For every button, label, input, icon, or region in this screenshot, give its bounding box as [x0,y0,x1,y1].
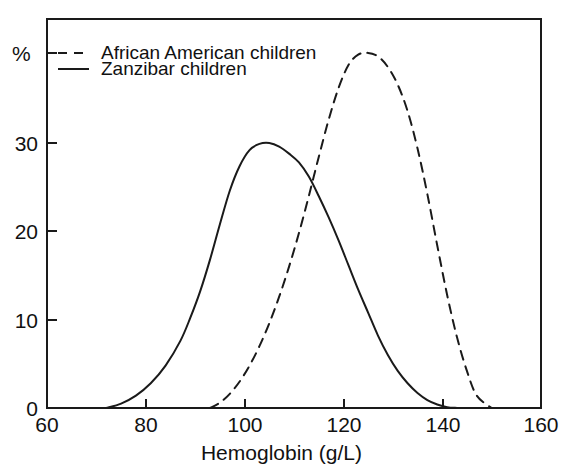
x-tick-label-140: 140 [413,413,473,437]
y-tick-label-30: 30 [0,132,38,156]
y-axis-title: % [12,42,31,66]
x-axis-ticks [146,399,443,408]
chart-container: 0 10 20 30 % 60 80 100 120 140 160 Hemog… [0,0,563,474]
x-tick-label-160: 160 [511,413,563,437]
y-tick-label-10: 10 [0,309,38,333]
series-african-american-children [210,53,492,408]
y-tick-label-20: 20 [0,220,38,244]
x-tick-label-100: 100 [215,413,275,437]
chart-plot-area [0,0,563,474]
x-axis-title: Hemoglobin (g/L) [0,441,563,465]
y-axis-ticks [47,53,57,320]
series-zanzibar-children [106,143,457,408]
legend-label-zanzibar-children: Zanzibar children [101,58,247,80]
x-tick-label-80: 80 [116,413,176,437]
x-tick-label-120: 120 [314,413,374,437]
x-tick-label-60: 60 [17,413,77,437]
